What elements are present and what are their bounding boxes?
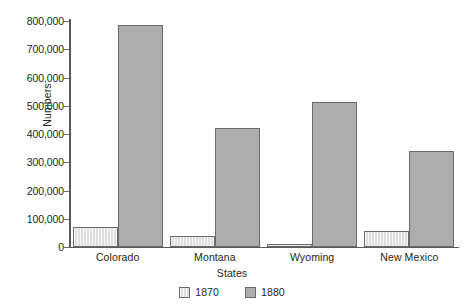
bar-wyoming-1880 — [312, 102, 357, 247]
y-tick-label: 300,000 — [6, 157, 64, 167]
y-tick-label: 700,000 — [6, 44, 64, 54]
y-tick-label: 500,000 — [6, 101, 64, 111]
y-tick-label: 0 — [6, 242, 64, 252]
bar-colorado-1880 — [118, 25, 163, 247]
x-tick-label: New Mexico — [359, 250, 459, 264]
y-axis-ticks: 0100,000200,000300,000400,000500,000600,… — [0, 0, 64, 307]
bar-chart: Numbers 0100,000200,000300,000400,000500… — [0, 0, 464, 307]
x-axis-title: States — [0, 266, 464, 280]
legend-swatch-icon — [179, 287, 190, 298]
x-tick-label: Montana — [165, 250, 265, 264]
y-tick-label: 600,000 — [6, 73, 64, 83]
legend-swatch-icon — [245, 287, 256, 298]
y-tick-mark — [64, 49, 69, 50]
bar-montana-1880 — [215, 128, 260, 247]
y-tick-mark — [64, 78, 69, 79]
y-tick-mark — [64, 21, 69, 22]
y-tick-label: 100,000 — [6, 214, 64, 224]
bar-montana-1870 — [170, 236, 215, 247]
y-tick-mark — [64, 191, 69, 192]
bar-new-mexico-1870 — [364, 231, 409, 247]
y-tick-mark — [64, 247, 69, 248]
y-tick-label: 400,000 — [6, 129, 64, 139]
y-tick-mark — [64, 134, 69, 135]
bar-new-mexico-1880 — [409, 151, 454, 247]
y-tick-mark — [64, 219, 69, 220]
x-tick-label: Colorado — [68, 250, 168, 264]
legend-item-1870[interactable]: 1870 — [179, 286, 219, 298]
legend-label: 1880 — [261, 286, 285, 298]
bar-colorado-1870 — [73, 227, 118, 247]
bar-wyoming-1870 — [267, 244, 312, 247]
y-tick-mark — [64, 106, 69, 107]
legend-item-1880[interactable]: 1880 — [245, 286, 285, 298]
chart-legend: 18701880 — [0, 286, 464, 298]
plot-area — [69, 21, 458, 247]
y-tick-label: 800,000 — [6, 16, 64, 26]
legend-label: 1870 — [195, 286, 219, 298]
x-tick-label: Wyoming — [262, 250, 362, 264]
y-tick-mark — [64, 162, 69, 163]
y-tick-label: 200,000 — [6, 186, 64, 196]
